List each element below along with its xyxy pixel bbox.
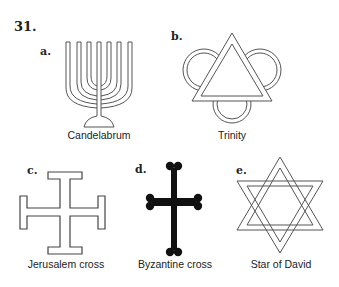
byzantine-cross-icon: [0, 0, 339, 287]
caption-trinity: Trinity: [218, 129, 246, 141]
item-letter-d: d.: [135, 163, 147, 176]
jerusalem-cross-icon: [0, 0, 339, 287]
caption-jerusalem-cross: Jerusalem cross: [28, 258, 104, 270]
caption-star-of-david: Star of David: [251, 258, 312, 270]
caption-candelabrum: Candelabrum: [67, 129, 130, 141]
menorah-icon: [0, 0, 339, 287]
item-letter-a: a.: [40, 45, 51, 58]
caption-byzantine-cross: Byzantine cross: [138, 258, 212, 270]
star-of-david-icon: [0, 0, 339, 287]
figure-number: 31.: [14, 19, 37, 34]
item-letter-b: b.: [171, 30, 183, 43]
item-letter-c: c.: [27, 164, 38, 177]
item-letter-e: e.: [236, 164, 247, 177]
trinity-icon: [0, 0, 339, 287]
